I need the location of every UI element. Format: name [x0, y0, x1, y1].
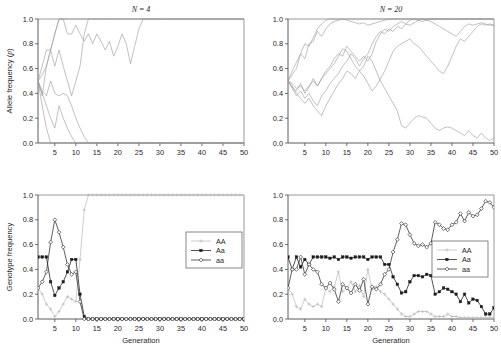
marker-filled-square: [287, 256, 290, 259]
x-tick-label: 45: [219, 148, 227, 157]
marker-plus: [230, 193, 233, 196]
y-tick-label: 0.4: [273, 89, 283, 98]
marker-open-diamond: [295, 268, 299, 272]
marker-filled-square: [421, 276, 424, 279]
marker-plus: [104, 193, 107, 196]
marker-open-diamond: [458, 212, 462, 216]
marker-plus: [196, 193, 199, 196]
marker-plus: [362, 295, 365, 298]
y-tick-label: 0.2: [23, 290, 33, 299]
y-tick-label: 0.0: [273, 139, 283, 148]
marker-filled-square: [417, 274, 420, 277]
legend: AAAaaa: [186, 232, 242, 268]
panel-top-right: 0.00.20.40.60.81.05101520253035404550N =…: [250, 0, 500, 176]
marker-filled-square: [375, 256, 378, 259]
plot-area-bottom-left: 0.00.20.40.60.81.05101520253035404550Gen…: [0, 176, 250, 352]
marker-plus: [179, 193, 182, 196]
marker-plus: [129, 193, 132, 196]
marker-plus: [146, 193, 149, 196]
marker-open-diamond: [45, 270, 49, 274]
marker-filled-square: [383, 263, 386, 266]
marker-filled-square: [333, 256, 336, 259]
x-tick-label: 30: [156, 148, 164, 157]
x-tick-label: 20: [114, 324, 122, 333]
marker-filled-square: [396, 283, 399, 286]
marker-filled-square: [446, 258, 449, 261]
x-tick-label: 50: [240, 324, 248, 333]
marker-filled-square: [337, 258, 340, 261]
marker-plus: [204, 193, 207, 196]
marker-plus: [221, 193, 224, 196]
x-tick-label: 50: [240, 148, 248, 157]
x-tick-label: 15: [93, 324, 101, 333]
y-axis-label-group: Genotype frequency: [5, 223, 14, 292]
marker-filled-square: [37, 256, 40, 259]
marker-plus: [433, 315, 436, 318]
y-tick-label: 0.4: [23, 265, 33, 274]
marker-filled-square: [341, 256, 344, 259]
marker-filled-square: [316, 256, 319, 259]
marker-open-diamond: [395, 238, 399, 242]
marker-plus: [421, 310, 424, 313]
y-tick-label: 1.0: [273, 191, 283, 200]
y-tick-label: 1.0: [23, 191, 33, 200]
marker-filled-square: [325, 256, 328, 259]
y-tick-label: 0.2: [273, 114, 283, 123]
marker-plus: [188, 193, 191, 196]
x-tick-label: 25: [385, 324, 393, 333]
marker-plus: [234, 193, 237, 196]
x-tick-label: 10: [72, 324, 80, 333]
plot-area-bottom-right: 0.00.20.40.60.81.05101520253035404550Gen…: [250, 176, 500, 352]
y-tick-label: 0.6: [23, 240, 33, 249]
marker-plus: [83, 208, 86, 211]
marker-filled-square: [304, 258, 307, 261]
marker-plus: [320, 305, 323, 308]
marker-open-diamond: [454, 220, 458, 224]
x-tick-label: 5: [303, 148, 307, 157]
panel-title: N = 20: [379, 5, 403, 14]
marker-plus: [78, 258, 81, 261]
y-tick-label: 0.8: [273, 39, 283, 48]
panel-top-left: 0.00.20.40.60.81.05101520253035404550N =…: [0, 0, 250, 176]
series-line-replicate-3: [38, 19, 244, 96]
marker-plus: [125, 193, 128, 196]
marker-plus: [299, 307, 302, 310]
series-line-replicate-4: [38, 81, 244, 143]
marker-plus: [425, 310, 428, 313]
marker-filled-square: [409, 281, 412, 284]
x-tick-label: 25: [135, 148, 143, 157]
marker-filled-square: [392, 276, 395, 279]
marker-plus: [217, 193, 220, 196]
y-tick-label: 0.6: [23, 64, 33, 73]
marker-open-diamond: [61, 245, 65, 249]
marker-filled-square: [438, 290, 441, 293]
series-line-replicate-5: [38, 81, 244, 143]
marker-filled-square: [476, 299, 479, 302]
y-axis-label: Genotype frequency: [5, 223, 14, 292]
x-tick-label: 5: [303, 324, 307, 333]
marker-plus: [74, 300, 77, 303]
series-line-replicate-1: [38, 19, 244, 81]
marker-plus: [116, 193, 119, 196]
x-tick-label: 15: [343, 324, 351, 333]
marker-plus: [337, 270, 340, 273]
legend-label-aa: aa: [462, 265, 470, 274]
marker-plus: [316, 302, 319, 305]
marker-open-diamond: [463, 219, 467, 223]
marker-plus: [446, 312, 449, 315]
series-line-replicate-6: [38, 81, 244, 143]
marker-open-diamond: [400, 222, 404, 226]
marker-filled-square: [66, 271, 69, 274]
marker-plus: [133, 193, 136, 196]
marker-filled-square: [371, 256, 374, 259]
marker-filled-square: [379, 256, 382, 259]
y-tick-label: 0.2: [23, 114, 33, 123]
x-tick-label: 10: [72, 148, 80, 157]
marker-filled-square: [447, 288, 450, 291]
legend-label-Aa: Aa: [216, 246, 225, 255]
marker-open-diamond: [57, 230, 61, 234]
marker-filled-square: [468, 302, 471, 305]
y-tick-label: 0.8: [23, 215, 33, 224]
x-tick-label: 45: [219, 324, 227, 333]
y-tick-label: 1.0: [23, 15, 33, 24]
